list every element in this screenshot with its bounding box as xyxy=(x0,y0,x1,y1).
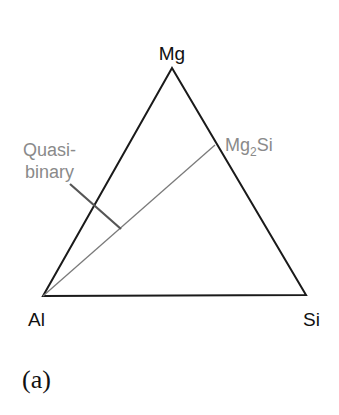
annotation-quasi: Quasi- xyxy=(23,140,76,160)
annotation-binary: binary xyxy=(25,162,74,182)
panel-label: (a) xyxy=(22,365,51,394)
annotation-leader-line xyxy=(70,184,121,229)
vertex-label-mg: Mg xyxy=(159,43,185,64)
ternary-diagram: Mg Al Si Mg2Si Quasi- binary (a) xyxy=(0,0,339,415)
vertex-label-al: Al xyxy=(28,309,45,330)
vertex-label-si: Si xyxy=(303,309,320,330)
compound-label-mg2si: Mg2Si xyxy=(225,135,273,159)
